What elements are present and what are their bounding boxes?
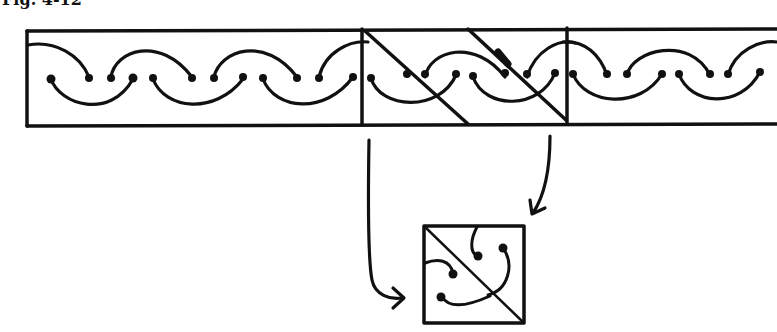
diagram-canvas xyxy=(0,0,777,332)
section-diagonals xyxy=(365,29,566,124)
repeat-tile xyxy=(424,226,524,323)
right-arrow xyxy=(533,136,550,213)
left-arrow xyxy=(368,140,402,298)
